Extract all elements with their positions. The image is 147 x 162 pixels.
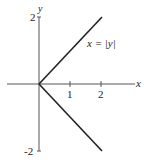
upper-branch-line xyxy=(39,17,102,84)
equation-label: x = |y| xyxy=(87,38,116,49)
x-tick-label-2: 2 xyxy=(98,89,104,100)
y-tick-label-2: 2 xyxy=(30,12,36,23)
plot-area xyxy=(0,0,147,162)
y-axis-label: y xyxy=(38,4,42,14)
y-tick-label-neg2: -2 xyxy=(24,146,33,157)
x-tick-label-1: 1 xyxy=(67,89,73,100)
x-axis-label: x xyxy=(136,78,141,89)
